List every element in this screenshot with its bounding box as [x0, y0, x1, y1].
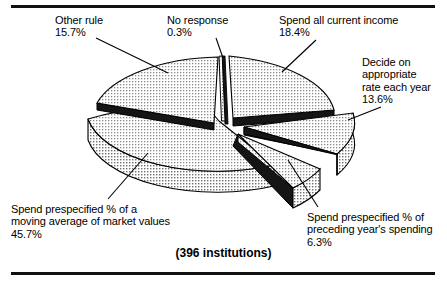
leader-other-rule	[96, 38, 168, 73]
pie-slice-spend-all-current-income[interactable]	[229, 56, 334, 126]
pie-chart-figure: Other rule 15.7% No response 0.3% Spend …	[0, 0, 447, 286]
leader-no-response	[216, 38, 223, 58]
slice-label-other-rule: Other rule 15.7%	[55, 14, 103, 39]
slice-label-no-response: No response 0.3%	[167, 14, 228, 39]
pie-slice-no-response[interactable]	[219, 56, 228, 124]
slice-label-spend-all-current-income: Spend all current income 18.4%	[279, 14, 398, 39]
slice-label-decide-appropriate-rate: Decide on appropriate rate each year 13.…	[362, 56, 431, 106]
slice-label-prespecified-preceding-year: Spend prespecified % of preceding year's…	[307, 211, 433, 248]
chart-caption: (396 institutions)	[0, 246, 447, 260]
leader-spend-all	[282, 40, 316, 72]
slice-label-prespecified-moving-average: Spend prespecified % of a moving average…	[11, 203, 170, 240]
